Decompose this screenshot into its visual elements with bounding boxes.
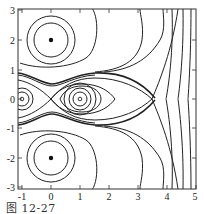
plot-frame — [18, 9, 196, 189]
band-lower — [18, 100, 155, 125]
curve-fan-bottom-1 — [95, 126, 143, 189]
y-tick-label: -3 — [7, 182, 15, 193]
figure-caption: 图 12-27 — [6, 199, 56, 214]
y-tick-label: 0 — [10, 94, 15, 105]
separatrix-mid-lower — [51, 99, 152, 120]
y-ticks — [18, 10, 196, 187]
curve-right-3 — [188, 9, 191, 189]
y-tick-labels: 3 2 1 0 -1 -2 -3 — [7, 5, 15, 193]
y-tick-label: 1 — [10, 65, 15, 76]
x-tick-label: 4 — [165, 191, 170, 202]
y-tick-label: 2 — [10, 35, 15, 46]
curve-right-1 — [166, 9, 172, 189]
curve-right-2 — [178, 9, 183, 189]
separatrix-right-upper — [152, 9, 178, 99]
plot-area — [11, 8, 191, 190]
x-tick-label: 3 — [136, 191, 141, 202]
contour-plot: -1 0 1 2 3 4 5 3 2 1 0 -1 -2 -3 — [0, 0, 204, 214]
y-tick-label: -1 — [7, 123, 15, 134]
separatrix-mid-upper — [51, 78, 152, 99]
x-tick-label: 2 — [107, 191, 112, 202]
y-tick-label: -2 — [7, 153, 15, 164]
curve-fan-bottom-2 — [104, 126, 164, 189]
x-ticks — [22, 9, 196, 189]
fixed-point-top — [49, 38, 53, 42]
curve-fan-top-2 — [104, 9, 164, 72]
y-tick-label: 3 — [10, 5, 15, 16]
x-tick-label: 1 — [78, 191, 83, 202]
x-tick-label: 5 — [193, 191, 198, 202]
fixed-point-bottom — [49, 156, 53, 160]
band-upper — [18, 73, 155, 98]
separatrix-right-lower — [152, 99, 178, 189]
curve-fan-top-1 — [95, 9, 143, 72]
fixed-point-center — [78, 97, 82, 101]
